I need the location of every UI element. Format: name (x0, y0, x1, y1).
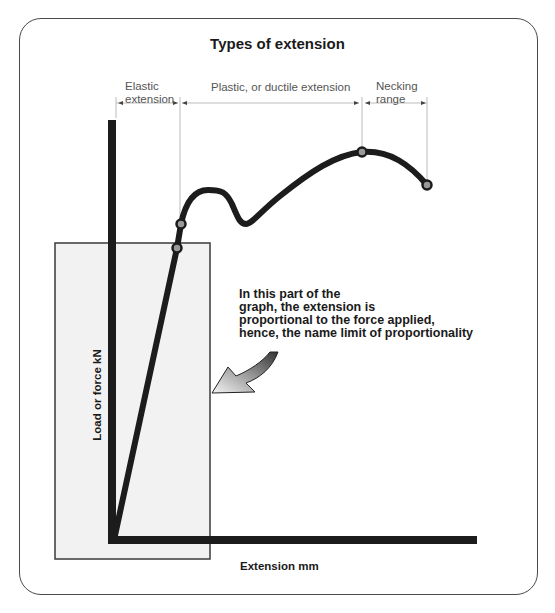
pointer-arrow-icon (212, 352, 278, 393)
proportional-region-box (55, 243, 210, 559)
y-axis-label: Load or force kN (91, 349, 103, 440)
proportionality-note: In this part of the graph, the extension… (239, 288, 473, 340)
breaking-point (423, 181, 432, 190)
x-axis-label: Extension mm (240, 560, 319, 572)
range-label-plastic: Plastic, or ductile extension (211, 81, 350, 94)
maximum-load-point (358, 148, 367, 157)
y-axis (108, 120, 116, 544)
range-label-elastic: Elastic extension (125, 80, 174, 106)
x-axis (108, 536, 477, 544)
limit-of-proportionality-point (173, 244, 182, 253)
elastic-limit-point (177, 220, 186, 229)
key-points (173, 148, 432, 253)
range-label-necking: Necking range (376, 80, 418, 106)
